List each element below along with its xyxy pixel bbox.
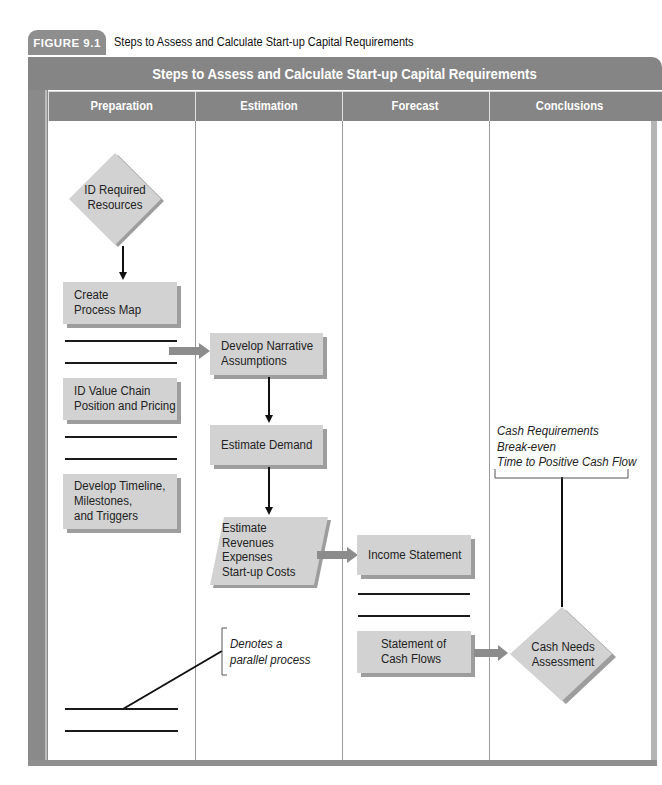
lane-separator — [342, 121, 343, 760]
frame-right-band — [651, 121, 657, 766]
estimate-demand-box: Estimate Demand — [210, 425, 323, 465]
create-process-map-box: Create Process Map — [63, 282, 177, 324]
lane-header-conclusions: Conclusions — [489, 91, 651, 121]
arrow-down-icon — [119, 272, 127, 280]
income-statement-box: Income Statement — [357, 535, 471, 575]
diagram-title-text: Steps to Assess and Calculate Start-up C… — [153, 65, 538, 82]
figure-caption: Steps to Assess and Calculate Start-up C… — [114, 35, 414, 49]
lane-header-estimation: Estimation — [195, 91, 342, 121]
header-separator — [48, 91, 49, 121]
gray-arrow-right-icon — [169, 343, 211, 359]
develop-narrative-box: Develop Narrative Assumptions — [210, 333, 323, 375]
estimate-revenues-label: Estimate Revenues Expenses Start-up Cost… — [222, 521, 302, 579]
connector-line — [268, 377, 270, 415]
header-separator — [342, 91, 343, 121]
statement-cash-flows-box: Statement of Cash Flows — [357, 631, 471, 673]
id-required-resources-label: ID Required Resources — [65, 183, 165, 213]
arrow-down-icon — [265, 415, 273, 423]
parallel-process-line — [65, 362, 177, 364]
parallel-process-line — [358, 593, 470, 595]
cash-needs-assessment-label: Cash Needs Assessment — [508, 640, 618, 669]
lane-header-forecast: Forecast — [342, 91, 489, 121]
gray-arrow-right-icon — [317, 547, 359, 563]
parallel-process-line — [65, 340, 177, 342]
parallel-process-line — [65, 458, 177, 460]
develop-timeline-box: Develop Timeline, Milestones, and Trigge… — [63, 474, 177, 529]
header-separator — [489, 91, 490, 121]
legend-parallel-line — [65, 708, 178, 710]
outputs-annotation: Cash Requirements Break-even Time to Pos… — [497, 424, 648, 471]
frame-bottom-band — [28, 760, 657, 766]
lane-separator — [489, 121, 490, 760]
id-value-chain-box: ID Value Chain Position and Pricing — [63, 378, 177, 420]
connector-line — [268, 467, 270, 507]
gray-arrow-right-icon — [474, 645, 510, 661]
legend-annotation: Denotes a parallel process — [230, 637, 318, 668]
lane-header-preparation: Preparation — [48, 91, 195, 121]
header-separator — [195, 91, 196, 121]
legend-pointer — [60, 625, 240, 745]
legend-parallel-line — [65, 730, 178, 732]
parallel-process-line — [358, 615, 470, 617]
arrow-down-icon — [265, 507, 273, 515]
diagram-title: Steps to Assess and Calculate Start-up C… — [28, 57, 662, 90]
frame-left-band — [28, 90, 48, 766]
connector-line — [122, 246, 124, 272]
parallel-process-line — [65, 436, 177, 438]
figure-label: FIGURE 9.1 — [28, 30, 106, 55]
connector-line — [561, 477, 563, 607]
